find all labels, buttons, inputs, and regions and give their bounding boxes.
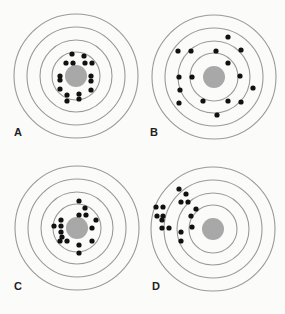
shot-dot bbox=[225, 60, 230, 65]
shot-dot bbox=[176, 74, 181, 79]
bullseye bbox=[66, 217, 88, 239]
shot-dot bbox=[89, 60, 94, 65]
shot-dot bbox=[200, 98, 205, 103]
shot-dot bbox=[76, 242, 81, 247]
shot-dot bbox=[159, 225, 164, 230]
shot-dot bbox=[64, 92, 69, 97]
shot-dot bbox=[76, 250, 81, 255]
target-panel-d bbox=[151, 167, 275, 291]
bullseye bbox=[202, 218, 224, 240]
bullseye bbox=[65, 65, 87, 87]
panel-label-d: D bbox=[152, 280, 160, 292]
shot-dot bbox=[57, 238, 62, 243]
shot-dot bbox=[189, 224, 194, 229]
shot-dot bbox=[82, 60, 87, 65]
shot-dot bbox=[176, 186, 181, 191]
shot-dot bbox=[178, 229, 183, 234]
shot-dot bbox=[177, 87, 182, 92]
shot-dot bbox=[225, 98, 230, 103]
shot-dot bbox=[193, 206, 198, 211]
shot-dot bbox=[213, 48, 218, 53]
target-panel-b bbox=[152, 15, 276, 139]
shot-dot bbox=[69, 51, 74, 56]
shot-dot bbox=[76, 212, 81, 217]
shot-dot bbox=[185, 199, 190, 204]
shot-dot bbox=[178, 238, 183, 243]
shot-dot bbox=[76, 96, 81, 101]
shot-dot bbox=[154, 213, 159, 218]
panel-label-b: B bbox=[150, 126, 158, 138]
shot-dot bbox=[238, 47, 243, 52]
shot-dot bbox=[238, 99, 243, 104]
shot-dot bbox=[57, 86, 62, 91]
shot-dot bbox=[57, 77, 62, 82]
target-panel-c bbox=[15, 166, 139, 290]
target-diagram-figure bbox=[0, 0, 285, 314]
panel-label-c: C bbox=[14, 280, 22, 292]
shot-dot bbox=[88, 78, 93, 83]
shot-dot bbox=[76, 91, 81, 96]
shot-dot bbox=[188, 213, 193, 218]
shot-dot bbox=[188, 48, 193, 53]
shot-dot bbox=[176, 100, 181, 105]
shot-dot bbox=[81, 53, 86, 58]
shot-dot bbox=[178, 199, 183, 204]
shot-dot bbox=[76, 198, 81, 203]
shot-dot bbox=[51, 223, 56, 228]
shot-dot bbox=[70, 60, 75, 65]
shot-dot bbox=[237, 73, 242, 78]
target-panel-a bbox=[14, 14, 138, 138]
shot-dot bbox=[58, 229, 63, 234]
shot-dot bbox=[183, 191, 188, 196]
shot-dot bbox=[159, 217, 164, 222]
shot-dot bbox=[58, 217, 63, 222]
shot-dot bbox=[214, 112, 219, 117]
shot-dot bbox=[160, 204, 165, 209]
shot-dot bbox=[89, 238, 94, 243]
shot-dot bbox=[250, 85, 255, 90]
shot-dot bbox=[93, 217, 98, 222]
shot-dot bbox=[153, 204, 158, 209]
panel-label-a: A bbox=[14, 126, 22, 138]
shot-dot bbox=[64, 98, 69, 103]
shot-dot bbox=[63, 60, 68, 65]
shot-dot bbox=[166, 225, 171, 230]
shot-dot bbox=[225, 34, 230, 39]
shot-dot bbox=[88, 73, 93, 78]
shot-dot bbox=[83, 212, 88, 217]
shot-dot bbox=[89, 225, 94, 230]
shot-dot bbox=[58, 223, 63, 228]
shot-dot bbox=[64, 238, 69, 243]
bullseye bbox=[203, 66, 225, 88]
shot-dot bbox=[189, 74, 194, 79]
shot-dot bbox=[88, 87, 93, 92]
shot-dot bbox=[82, 205, 87, 210]
shot-dot bbox=[175, 48, 180, 53]
